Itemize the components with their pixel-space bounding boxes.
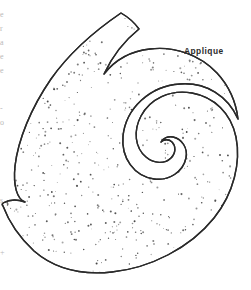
stipple-dot xyxy=(62,154,64,156)
stipple-dot xyxy=(67,49,68,50)
stipple-dot xyxy=(242,85,244,87)
stipple-dot xyxy=(149,163,150,164)
stipple-dot xyxy=(42,20,44,22)
stipple-dot xyxy=(17,51,18,52)
stipple-dot xyxy=(136,257,137,258)
stipple-dot xyxy=(13,164,15,166)
stipple-dot xyxy=(233,209,234,210)
stipple-dot xyxy=(190,28,191,29)
stipple-dot xyxy=(118,224,119,225)
stipple-dot xyxy=(242,220,243,221)
stipple-dot xyxy=(98,68,100,70)
stipple-dot xyxy=(96,278,98,280)
stipple-dot xyxy=(38,134,39,135)
stipple-dot xyxy=(235,67,237,69)
stipple-dot xyxy=(171,40,173,42)
stipple-dot xyxy=(228,56,229,57)
stipple-dot xyxy=(235,29,236,30)
stipple-dot xyxy=(2,39,4,41)
stipple-dot xyxy=(231,113,233,115)
stipple-dot xyxy=(132,227,133,228)
stipple-dot xyxy=(35,152,36,153)
stipple-dot xyxy=(22,113,23,114)
stipple-dot xyxy=(146,161,148,163)
stipple-dot xyxy=(36,137,37,138)
stipple-dot xyxy=(230,250,232,252)
stipple-dot xyxy=(37,2,39,4)
stipple-dot xyxy=(165,152,166,153)
stipple-dot xyxy=(116,3,117,4)
stipple-dot xyxy=(151,181,153,183)
stipple-dot xyxy=(31,252,33,254)
stipple-dot xyxy=(184,33,185,34)
stipple-dot xyxy=(97,194,99,196)
stipple-dot xyxy=(164,287,165,288)
stipple-dot xyxy=(78,162,80,164)
stipple-dot xyxy=(79,115,80,116)
stipple-dot xyxy=(75,22,76,23)
stipple-dot xyxy=(123,183,124,184)
stipple-dot xyxy=(148,58,150,60)
stipple-dot xyxy=(96,152,97,153)
stipple-dot xyxy=(42,22,43,23)
stipple-dot xyxy=(229,165,231,167)
stipple-dot xyxy=(95,244,96,245)
stipple-dot xyxy=(166,70,167,71)
stipple-dot xyxy=(61,36,63,38)
stipple-dot xyxy=(7,204,8,205)
stipple-dot xyxy=(181,129,183,131)
stipple-dot xyxy=(164,89,166,91)
stipple-dot xyxy=(78,230,80,232)
stipple-dot xyxy=(108,167,109,168)
stipple-dot xyxy=(56,122,58,124)
stipple-dot xyxy=(157,164,159,166)
stipple-dot xyxy=(138,215,140,217)
stipple-dot xyxy=(152,240,154,242)
stipple-dot xyxy=(165,150,166,151)
stipple-dot xyxy=(238,273,239,274)
stipple-dot xyxy=(248,224,250,226)
stipple-dot xyxy=(162,80,163,81)
stipple-dot xyxy=(229,244,231,246)
stipple-dot xyxy=(6,202,8,204)
stipple-dot xyxy=(48,286,49,287)
stipple-dot xyxy=(83,51,85,53)
stipple-dot xyxy=(133,135,135,137)
stipple-dot xyxy=(78,283,80,285)
stipple-dot xyxy=(20,272,21,273)
stipple-dot xyxy=(32,215,33,216)
stipple-dot xyxy=(106,288,108,290)
stipple-dot xyxy=(41,52,43,54)
stipple-dot xyxy=(188,107,190,109)
stipple-dot xyxy=(23,96,25,98)
stipple-dot xyxy=(175,105,176,106)
stipple-dot xyxy=(26,204,27,205)
stipple-dot xyxy=(142,183,143,184)
stipple-dot xyxy=(213,229,214,230)
stipple-dot xyxy=(127,141,128,142)
stipple-dot xyxy=(6,153,7,154)
stipple-dot xyxy=(85,24,87,26)
stipple-dot xyxy=(88,50,90,52)
stipple-dot xyxy=(142,231,144,233)
stipple-dot xyxy=(151,254,152,255)
stipple-dot xyxy=(163,228,164,229)
stipple-dot xyxy=(74,125,75,126)
stipple-dot xyxy=(211,132,212,133)
stipple-dot xyxy=(88,144,89,145)
stipple-dot xyxy=(92,178,93,179)
stipple-dot xyxy=(142,62,143,63)
stipple-dot xyxy=(111,198,112,199)
stipple-dot xyxy=(85,53,87,55)
stipple-dot xyxy=(165,157,166,158)
stipple-dot xyxy=(3,162,4,163)
stipple-dot xyxy=(240,167,242,169)
stipple-dot xyxy=(77,92,78,93)
stipple-dot xyxy=(36,15,37,16)
stipple-dot xyxy=(117,164,119,166)
stipple-dot xyxy=(239,239,241,241)
stipple-dot xyxy=(53,24,55,26)
stipple-dot xyxy=(183,72,184,73)
stipple-dot xyxy=(112,122,113,123)
stipple-dot xyxy=(152,279,154,281)
